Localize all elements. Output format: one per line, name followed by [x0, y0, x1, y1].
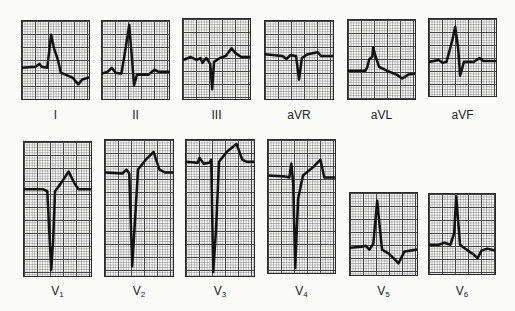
- lead-label-v6: V6: [428, 284, 496, 299]
- ecg-trace-v2: [105, 140, 173, 276]
- lead-strip-v6: [428, 193, 496, 275]
- ecg-trace-avl: [348, 20, 415, 99]
- lead-label-v1: V1: [23, 284, 92, 299]
- lead-label-i: I: [21, 108, 90, 122]
- lead-label-avf: aVF: [428, 108, 497, 122]
- lead-strip-avf: [428, 18, 497, 97]
- ecg-trace-avf: [429, 19, 496, 96]
- lead-strip-v3: [185, 139, 255, 277]
- lead-label-ii: II: [101, 108, 170, 122]
- lead-label-v3: V3: [185, 284, 255, 299]
- ecg-trace-v6: [429, 194, 495, 274]
- ecg-trace-i: [22, 21, 89, 99]
- lead-label-v4: V4: [267, 284, 336, 299]
- lead-label-v5: V5: [349, 284, 418, 299]
- ecg-trace-v3: [186, 140, 254, 276]
- ecg-trace-ii: [102, 21, 169, 99]
- lead-strip-avl: [347, 19, 416, 100]
- lead-label-v2: V2: [104, 284, 174, 299]
- lead-strip-v5: [349, 192, 418, 276]
- lead-strip-v1: [23, 141, 92, 277]
- ecg-trace-avr: [265, 21, 333, 99]
- lead-strip-ii: [101, 20, 170, 100]
- ecg-trace-iii: [183, 19, 250, 99]
- lead-label-avr: aVR: [264, 108, 334, 122]
- lead-strip-avr: [264, 20, 334, 100]
- lead-label-iii: III: [182, 108, 251, 122]
- ecg-trace-v1: [24, 142, 91, 276]
- ecg-trace-v4: [268, 140, 335, 273]
- lead-strip-iii: [182, 18, 251, 100]
- lead-strip-i: [21, 20, 90, 100]
- lead-label-avl: aVL: [347, 108, 416, 122]
- ecg-trace-v5: [350, 193, 417, 275]
- lead-strip-v2: [104, 139, 174, 277]
- lead-strip-v4: [267, 139, 336, 274]
